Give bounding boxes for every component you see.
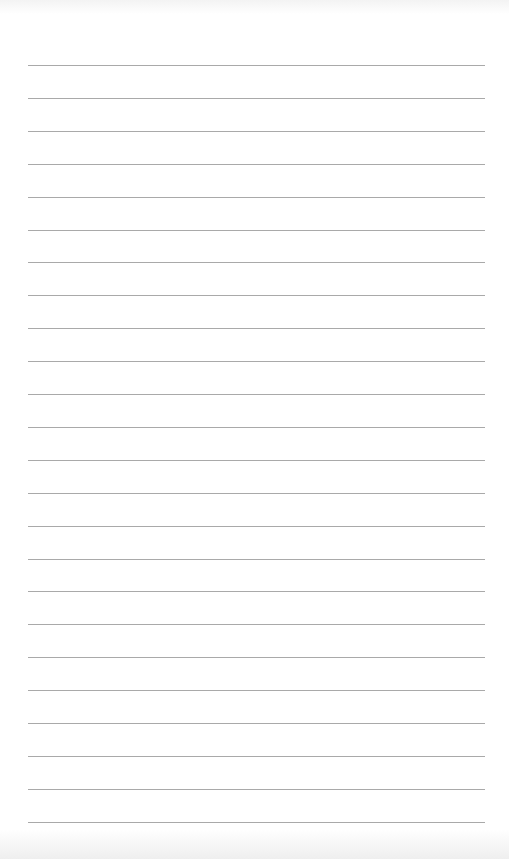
ruled-line [28,657,485,658]
ruled-line [28,493,485,494]
ruled-line [28,131,485,132]
ruled-line [28,460,485,461]
ruled-line [28,756,485,757]
ruled-line [28,624,485,625]
ruled-line [28,295,485,296]
lined-paper-sheet [0,0,509,859]
ruled-line [28,789,485,790]
scan-edge-bottom [0,829,509,859]
ruled-line [28,822,485,823]
ruled-line [28,65,485,66]
ruled-line [28,164,485,165]
ruled-line [28,690,485,691]
scan-edge-top [0,0,509,14]
ruled-line [28,197,485,198]
ruled-line [28,328,485,329]
ruled-line [28,394,485,395]
ruled-line [28,559,485,560]
ruled-line [28,427,485,428]
ruled-line [28,591,485,592]
ruled-line [28,723,485,724]
ruled-line [28,526,485,527]
ruled-line [28,361,485,362]
ruled-line [28,262,485,263]
ruled-line [28,98,485,99]
ruled-line [28,230,485,231]
